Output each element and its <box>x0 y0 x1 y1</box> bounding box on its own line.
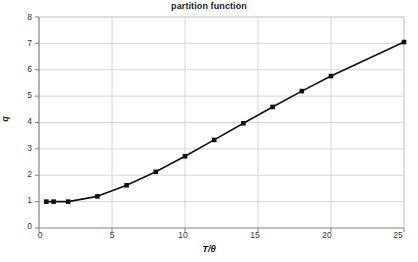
data-line <box>46 42 404 202</box>
chart-figure: partition function q T/θ 8 7 6 5 4 3 2 1… <box>0 0 418 262</box>
data-markers <box>44 40 406 204</box>
axis-ticks <box>35 17 404 232</box>
plot-area <box>0 0 418 262</box>
